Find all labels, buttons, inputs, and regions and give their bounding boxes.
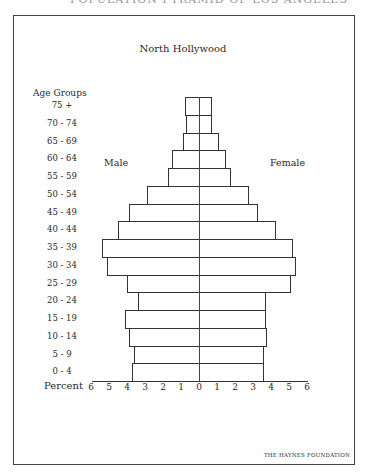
age-group-label: 25 - 29 [36, 278, 88, 288]
female-bar [199, 292, 266, 311]
age-group-label: 70 - 74 [36, 118, 88, 128]
x-tick-label: 4 [265, 382, 277, 392]
x-tick-label: 6 [301, 382, 313, 392]
legend-female: Female [270, 157, 305, 168]
x-tick-label: 3 [247, 382, 259, 392]
female-bar [199, 133, 219, 152]
age-group-label: 15 - 19 [36, 313, 88, 323]
male-bar [134, 346, 200, 365]
center-axis-line [199, 97, 200, 382]
age-group-label: 55 - 59 [36, 171, 88, 181]
age-group-label: 20 - 24 [36, 295, 88, 305]
age-group-label: 60 - 64 [36, 153, 88, 163]
age-group-label: 0 - 4 [36, 366, 88, 376]
female-bar [199, 328, 267, 347]
male-bar [129, 204, 200, 223]
female-bar [199, 204, 258, 223]
x-tick-label: 1 [175, 382, 187, 392]
y-axis-label: Age Groups [33, 88, 87, 98]
female-bar [199, 150, 226, 169]
age-group-label: 10 - 14 [36, 331, 88, 341]
age-group-label: 45 - 49 [36, 207, 88, 217]
male-bar [102, 239, 200, 258]
female-bar [199, 221, 276, 240]
female-bar [199, 186, 249, 205]
female-bar [199, 346, 264, 365]
age-group-label: 75 + [36, 100, 88, 110]
age-group-label: 5 - 9 [36, 349, 88, 359]
male-bar [125, 310, 200, 329]
male-bar [172, 150, 200, 169]
female-bar [199, 168, 231, 187]
x-tick-label: 2 [229, 382, 241, 392]
x-axis-label: Percent [44, 380, 83, 391]
x-tick-label: 4 [121, 382, 133, 392]
female-bar [199, 275, 291, 294]
female-bar [199, 239, 293, 258]
age-group-label: 65 - 69 [36, 136, 88, 146]
male-bar [147, 186, 200, 205]
cropped-heading: POPULATION PYRAMID OF LOS ANGELES [70, 0, 310, 6]
male-bar [138, 292, 200, 311]
age-group-label: 40 - 44 [36, 224, 88, 234]
male-bar [168, 168, 200, 187]
legend-male: Male [104, 157, 128, 168]
x-tick-label: 5 [103, 382, 115, 392]
female-bar [199, 97, 212, 116]
x-tick-label: 0 [193, 382, 205, 392]
x-tick-label: 3 [139, 382, 151, 392]
male-bar [127, 275, 200, 294]
age-group-label: 50 - 54 [36, 189, 88, 199]
female-bar [199, 115, 212, 134]
x-tick-label: 5 [283, 382, 295, 392]
female-bar [199, 310, 266, 329]
x-tick-label: 2 [157, 382, 169, 392]
chart-title: North Hollywood [0, 43, 366, 54]
x-tick-label: 1 [211, 382, 223, 392]
x-tick-label: 6 [85, 382, 97, 392]
age-group-label: 35 - 39 [36, 242, 88, 252]
male-bar [186, 115, 200, 134]
footer-credit: THE HAYNES FOUNDATION [264, 452, 350, 458]
female-bar [199, 363, 264, 382]
male-bar [185, 97, 200, 116]
male-bar [183, 133, 200, 152]
male-bar [107, 257, 200, 276]
female-bar [199, 257, 296, 276]
male-bar [129, 328, 200, 347]
age-group-label: 30 - 34 [36, 260, 88, 270]
male-bar [132, 363, 200, 382]
male-bar [118, 221, 200, 240]
